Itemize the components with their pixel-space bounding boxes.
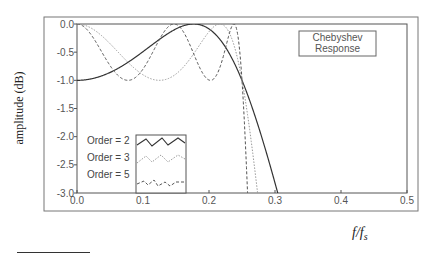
x-tick-label: 0.5	[400, 195, 414, 206]
legend: Order = 2 Order = 3 Order = 5	[87, 135, 186, 193]
y-tick-label: -1.0	[57, 75, 75, 86]
y-axis-ticks: 0.0-0.5-1.0-1.5-2.0-2.5-3.0	[57, 19, 77, 199]
x-tick-label: 0.3	[268, 195, 282, 206]
title-line-2: Response	[315, 43, 360, 54]
legend-label-order-3: Order = 3	[87, 152, 130, 163]
title-line-1: Chebyshev	[312, 32, 362, 43]
x-axis-label: f/fs	[352, 225, 368, 242]
x-axis-label-sub: s	[364, 231, 368, 242]
y-tick-label: -2.0	[57, 131, 75, 142]
footnote-rule	[17, 252, 90, 253]
x-axis-ticks: 0.00.10.20.30.40.5	[70, 190, 414, 206]
y-tick-label: 0.0	[60, 19, 74, 30]
x-tick-label: 0.4	[334, 195, 348, 206]
y-axis-label: amplitude (dB)	[12, 72, 26, 145]
y-tick-label: -0.5	[57, 47, 75, 58]
y-tick-label: -1.5	[57, 103, 75, 114]
legend-label-order-2: Order = 2	[87, 135, 130, 146]
x-tick-label: 0.2	[202, 195, 216, 206]
chebyshev-chart: 0.0-0.5-1.0-1.5-2.0-2.5-3.0 0.00.10.20.3…	[0, 0, 435, 254]
legend-label-order-5: Order = 5	[87, 169, 130, 180]
y-tick-label: -2.5	[57, 159, 75, 170]
x-tick-label: 0.1	[136, 195, 150, 206]
title-box: Chebyshev Response	[299, 31, 376, 56]
x-tick-label: 0.0	[70, 195, 84, 206]
